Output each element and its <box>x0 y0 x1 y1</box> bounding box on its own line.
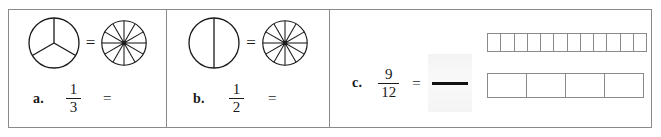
equals-sign-a: = <box>103 91 111 106</box>
equals-sign-c: = <box>412 76 420 91</box>
fraction-one-third: 1 3 <box>66 82 81 115</box>
bar-cell <box>501 34 514 51</box>
circle-model-row-b: = <box>167 14 329 72</box>
bar-cell <box>528 34 541 51</box>
bar-cell <box>566 74 605 97</box>
pie-chart-twelfths <box>100 19 148 67</box>
bar-cell <box>488 74 527 97</box>
problem-panel-b: = b. 1 2 <box>167 10 330 127</box>
equation-row-c: c. 9 12 = <box>352 54 472 112</box>
fraction-one-half: 1 2 <box>229 82 244 115</box>
fraction-worksheet: = a. 1 3 <box>8 9 652 128</box>
bar-cell <box>581 34 594 51</box>
problem-panel-c: c. 9 12 = <box>330 10 651 127</box>
bar-cell <box>621 34 634 51</box>
bar-cell <box>594 34 607 51</box>
bar-cell <box>515 34 528 51</box>
item-letter-b: b. <box>193 91 205 107</box>
problem-panel-a: = a. 1 3 <box>9 10 167 127</box>
bar-model-fourths <box>487 73 644 98</box>
numerator: 1 <box>67 82 81 98</box>
bar-cell <box>488 34 501 51</box>
equation-row-b: b. 1 2 = <box>167 82 355 115</box>
answer-blank-fraction[interactable] <box>428 54 472 112</box>
item-letter-c: c. <box>352 75 362 91</box>
circle-model-row-a: = <box>9 14 166 72</box>
denominator: 2 <box>230 99 244 115</box>
bar-cell <box>605 74 643 97</box>
denominator: 12 <box>378 84 399 100</box>
pie-chart-thirds <box>27 16 81 70</box>
numerator: 1 <box>230 82 244 98</box>
item-letter-a: a. <box>33 91 44 107</box>
pie-chart-twelfths <box>261 19 309 67</box>
numerator: 9 <box>382 67 396 83</box>
bar-cell <box>541 34 554 51</box>
denominator: 3 <box>67 99 81 115</box>
bar-cell <box>554 34 567 51</box>
bar-cell <box>527 74 566 97</box>
pie-chart-halves <box>187 16 241 70</box>
fraction-nine-twelfths: 9 12 <box>378 67 399 100</box>
bar-cell <box>607 34 620 51</box>
bar-model-twelfths <box>487 33 647 52</box>
blank-fraction-bar <box>432 82 468 85</box>
bar-cell <box>568 34 581 51</box>
equation-row-a: a. 1 3 = <box>9 82 190 115</box>
bar-cell <box>634 34 646 51</box>
model-equals-sign-a: = <box>86 34 96 53</box>
equals-sign-b: = <box>268 91 276 106</box>
model-equals-sign-b: = <box>246 34 256 53</box>
